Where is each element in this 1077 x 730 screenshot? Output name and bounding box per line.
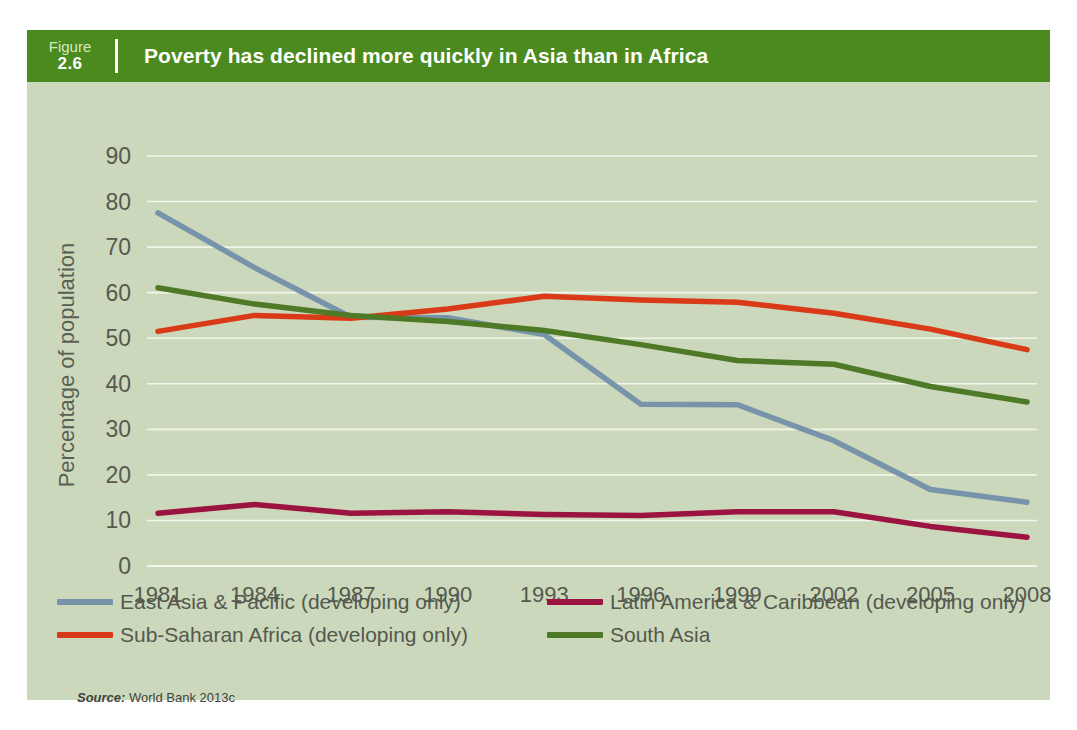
- legend-swatch-icon: [547, 632, 603, 638]
- source-label: Source:: [77, 690, 125, 705]
- legend-swatch-icon: [57, 599, 113, 605]
- legend-swatch-icon: [57, 632, 113, 638]
- chart-legend: East Asia & Pacific (developing only)Lat…: [57, 590, 1037, 656]
- legend-item[interactable]: South Asia: [547, 623, 1037, 647]
- legend-row: East Asia & Pacific (developing only)Lat…: [57, 590, 1037, 614]
- legend-swatch-icon: [547, 599, 603, 605]
- figure-label: Figure: [49, 39, 92, 55]
- figure-title: Poverty has declined more quickly in Asi…: [144, 44, 708, 68]
- figure-header: Figure 2.6 Poverty has declined more qui…: [27, 30, 1050, 82]
- legend-item[interactable]: East Asia & Pacific (developing only): [57, 590, 547, 614]
- source-value: World Bank 2013c: [125, 690, 235, 705]
- legend-item[interactable]: Sub-Saharan Africa (developing only): [57, 623, 547, 647]
- figure-number-block: Figure 2.6: [27, 39, 113, 73]
- source-note: Source: World Bank 2013c: [77, 690, 235, 705]
- legend-label: East Asia & Pacific (developing only): [120, 590, 461, 614]
- legend-label: Sub-Saharan Africa (developing only): [120, 623, 468, 647]
- series-line: [158, 288, 1027, 402]
- header-divider: [115, 39, 118, 73]
- series-line: [158, 213, 1027, 502]
- figure-panel: Figure 2.6 Poverty has declined more qui…: [27, 30, 1050, 700]
- legend-label: South Asia: [610, 623, 710, 647]
- figure-number: 2.6: [58, 55, 83, 73]
- legend-label: Latin America & Caribbean (developing on…: [610, 590, 1026, 614]
- legend-row: Sub-Saharan Africa (developing only)Sout…: [57, 623, 1037, 647]
- series-line: [158, 296, 1027, 349]
- legend-item[interactable]: Latin America & Caribbean (developing on…: [547, 590, 1037, 614]
